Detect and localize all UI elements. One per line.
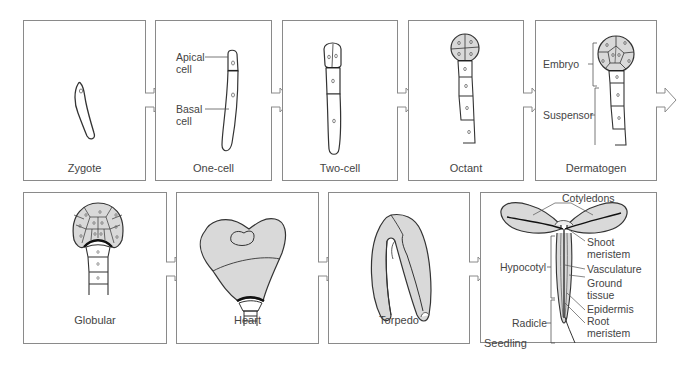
two-cell-illustration (283, 21, 399, 182)
stage-caption: Zygote (24, 162, 145, 174)
label-root-meristem: Rootmeristem (587, 315, 630, 339)
stage-caption: One-cell (156, 162, 271, 174)
label-hypocotyl: Hypocotyl (500, 261, 546, 273)
stage-caption: Two-cell (283, 162, 397, 174)
panel-torpedo: Torpedo (328, 192, 470, 344)
stage-caption: Globular (24, 314, 166, 326)
label-basal-cell: Basalcell (176, 103, 202, 127)
stage-caption: Heart (177, 314, 318, 326)
label-vasculature: Vasculature (587, 263, 642, 275)
panel-dermatogen: Embryo Suspensor Dermatogen (535, 20, 657, 181)
label-apical-cell: Apicalcell (176, 51, 205, 75)
panel-one-cell: Apicalcell Basalcell One-cell (155, 20, 272, 181)
label-epidermis: Epidermis (587, 303, 634, 315)
panel-seedling: Cotyledons Shootmeristem Hypocotyl Vascu… (480, 192, 657, 343)
label-suspensor: Suspensor (543, 109, 593, 121)
label-radicle: Radicle (512, 317, 547, 329)
stage-caption: Octant (409, 162, 523, 174)
stage-caption: Seedling (484, 337, 527, 349)
octant-illustration (409, 21, 525, 182)
one-cell-illustration (156, 21, 273, 182)
label-cotyledons: Cotyledons (562, 192, 615, 204)
stage-caption: Torpedo (329, 314, 469, 326)
panel-heart: Heart (176, 192, 319, 344)
zygote-illustration (24, 21, 147, 182)
arrow-right-icon (655, 88, 679, 112)
label-embryo: Embryo (543, 58, 579, 70)
panel-zygote: Zygote (23, 20, 146, 181)
panel-globular: Globular (23, 192, 167, 344)
label-shoot-meristem: Shootmeristem (587, 236, 630, 260)
panel-two-cell: Two-cell (282, 20, 398, 181)
dermatogen-illustration (536, 21, 658, 182)
panel-octant: Octant (408, 20, 524, 181)
label-ground-tissue: Groundtissue (587, 277, 622, 301)
stage-caption: Dermatogen (536, 162, 656, 174)
